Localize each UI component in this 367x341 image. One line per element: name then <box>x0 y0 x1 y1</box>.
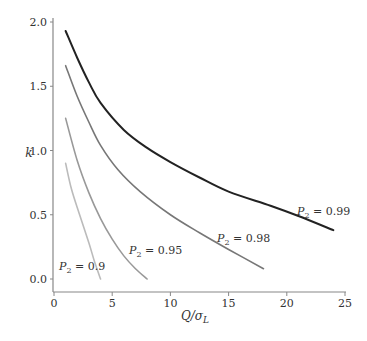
x-tick-label: 20 <box>280 297 294 310</box>
y-tick-label: 0.5 <box>30 209 48 222</box>
x-tick-label: 0 <box>51 297 58 310</box>
y-tick-label: 0.0 <box>30 273 48 286</box>
x-ticks: 0510152025 <box>51 292 353 310</box>
chart-container: 0510152025 0.00.51.01.52.0 P2 = 0.99P2 =… <box>0 0 367 341</box>
x-tick-label: 10 <box>163 297 177 310</box>
axes <box>53 18 346 292</box>
series-label-099: P2 = 0.99 <box>296 205 350 220</box>
x-axis-label: Q/σL <box>181 309 209 325</box>
series-line-099 <box>66 31 334 230</box>
y-ticks: 0.00.51.01.52.0 <box>30 16 54 286</box>
x-tick-label: 15 <box>222 297 236 310</box>
y-tick-label: 2.0 <box>30 16 48 29</box>
y-axis-label: k <box>25 146 32 160</box>
line-chart: 0510152025 0.00.51.01.52.0 P2 = 0.99P2 =… <box>0 0 367 341</box>
x-tick-label: 25 <box>338 297 352 310</box>
series-label-098: P2 = 0.98 <box>216 232 270 247</box>
series-labels: P2 = 0.99P2 = 0.98P2 = 0.95P2 = 0.9 <box>58 205 350 275</box>
series-label-09: P2 = 0.9 <box>58 260 105 275</box>
series-label-095: P2 = 0.95 <box>128 244 182 259</box>
y-tick-label: 1.5 <box>30 80 48 93</box>
x-tick-label: 5 <box>109 297 116 310</box>
series-lines <box>66 31 334 279</box>
